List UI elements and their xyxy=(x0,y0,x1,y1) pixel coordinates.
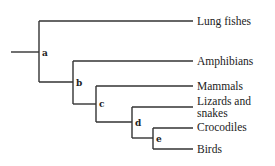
node-label-b: b xyxy=(76,78,82,88)
node-label-a: a xyxy=(42,48,48,58)
taxon-crocodiles: Crocodiles xyxy=(197,121,247,133)
taxon-amphibians: Amphibians xyxy=(197,55,253,67)
node-label-c: c xyxy=(99,99,105,109)
node-label-d: d xyxy=(135,118,142,128)
taxon-birds: Birds xyxy=(197,143,222,155)
taxon-mammals: Mammals xyxy=(197,80,243,92)
taxon-lizards-line2: snakes xyxy=(197,107,251,119)
taxon-lizards-and-snakes: Lizards and snakes xyxy=(197,95,251,119)
taxon-lizards-line1: Lizards and xyxy=(197,95,251,107)
node-label-e: e xyxy=(156,134,162,144)
taxon-lung-fishes: Lung fishes xyxy=(197,15,251,27)
